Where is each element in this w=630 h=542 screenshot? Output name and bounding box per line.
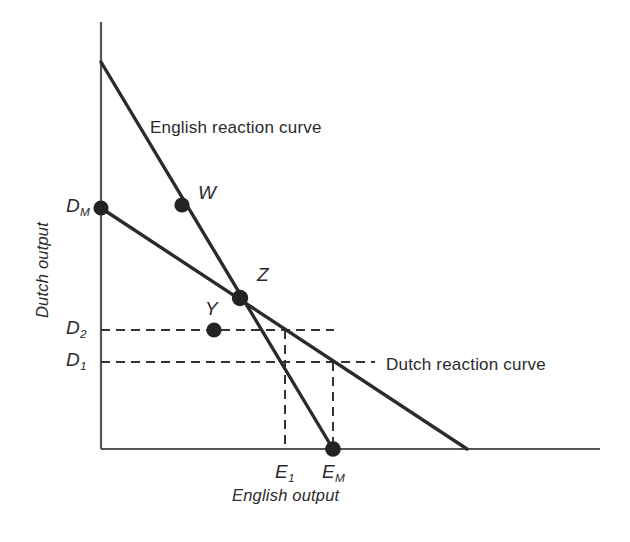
tick-label-d2-base: D <box>66 317 80 338</box>
dutch-reaction-curve-label: Dutch reaction curve <box>386 356 546 373</box>
tick-label-d1: D1 <box>66 350 86 369</box>
reaction-curves-figure: English reaction curve Dutch reaction cu… <box>0 0 630 542</box>
tick-label-d1-base: D <box>66 349 80 370</box>
point-label-z: Z <box>257 265 269 284</box>
tick-label-e1-base: E <box>275 461 288 482</box>
tick-label-e1-sub: 1 <box>288 471 295 484</box>
tick-label-e1: E1 <box>275 462 294 481</box>
point-label-em-sub: M <box>335 471 345 484</box>
point-label-dm: DM <box>66 196 90 215</box>
point-label-em-base: E <box>322 461 335 482</box>
point-em <box>325 441 341 457</box>
y-axis-title: Dutch output <box>34 222 51 318</box>
english-reaction-curve-label: English reaction curve <box>150 119 322 136</box>
point-label-y: Y <box>205 299 218 318</box>
point-label-w: W <box>198 183 216 202</box>
tick-label-d2-sub: 2 <box>80 327 87 340</box>
plot-canvas <box>0 0 630 542</box>
point-z <box>232 290 248 306</box>
point-dm <box>93 200 108 215</box>
tick-label-d2: D2 <box>66 318 86 337</box>
point-w <box>174 197 189 212</box>
tick-label-d1-sub: 1 <box>80 359 87 372</box>
point-label-dm-base: D <box>66 195 80 216</box>
point-label-em: EM <box>322 462 345 481</box>
point-label-dm-sub: M <box>80 205 90 218</box>
x-axis-title: English output <box>232 487 339 504</box>
point-y <box>206 322 221 337</box>
